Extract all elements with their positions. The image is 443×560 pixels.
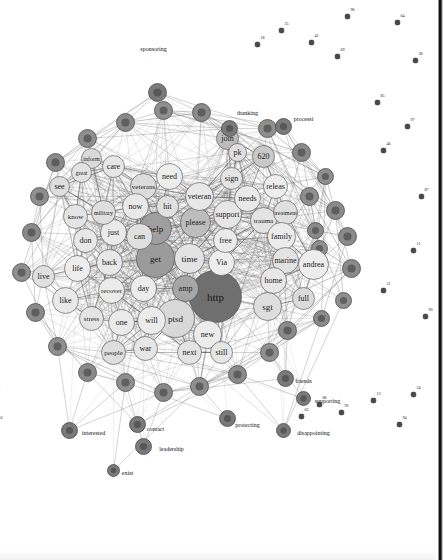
peripheral-node[interactable]: sponsoring xyxy=(140,45,166,101)
ring-node[interactable] xyxy=(228,365,246,383)
core-node-label: just xyxy=(106,228,119,237)
core-node[interactable]: back xyxy=(96,249,122,275)
core-node[interactable]: hit xyxy=(156,195,178,217)
isolated-node-label: 64 xyxy=(400,12,405,17)
core-node[interactable]: life xyxy=(64,255,90,281)
isolated-node[interactable]: 24 xyxy=(411,384,421,396)
isolated-node[interactable]: 51 xyxy=(381,280,390,292)
core-node-label: live xyxy=(37,272,49,281)
isolated-node-label: 86 xyxy=(322,394,326,399)
core-node[interactable]: now xyxy=(122,193,148,219)
isolated-node[interactable]: 90 xyxy=(423,306,432,318)
ring-node[interactable] xyxy=(192,103,210,121)
peripheral-node-label: contact xyxy=(146,425,164,431)
core-node[interactable]: great xyxy=(71,162,91,182)
core-node-label: new xyxy=(200,330,214,339)
isolated-node[interactable]: 92 xyxy=(339,402,348,414)
isolated-node-label: 97 xyxy=(410,116,414,121)
core-node[interactable]: next xyxy=(177,340,201,364)
core-node-label: full xyxy=(297,294,309,303)
peripheral-node[interactable]: disappointing xyxy=(276,423,329,437)
core-node-label: one xyxy=(115,318,127,327)
core-node[interactable]: will xyxy=(137,306,165,334)
ring-node[interactable] xyxy=(26,303,44,321)
figure-canvas: httpptsdgethelpamptimeViapleasesupportfr… xyxy=(0,0,443,560)
core-node[interactable]: like xyxy=(52,287,78,313)
isolated-node[interactable]: 62 xyxy=(299,406,308,418)
core-node[interactable]: know xyxy=(63,204,87,228)
ring-node[interactable] xyxy=(12,263,30,281)
peripheral-node[interactable]: interested xyxy=(61,422,105,438)
core-node-label: releas xyxy=(266,182,285,191)
core-node-label: 620 xyxy=(257,152,269,161)
isolated-node[interactable]: 69 xyxy=(335,46,344,58)
isolated-node[interactable]: 18 xyxy=(255,34,264,46)
isolated-node-label: 35 xyxy=(284,20,288,25)
ring-node[interactable] xyxy=(313,310,329,326)
core-node-label: life xyxy=(72,264,83,273)
core-node[interactable]: live xyxy=(32,265,54,287)
ring-node[interactable] xyxy=(46,153,64,171)
peripheral-node[interactable]: contact xyxy=(129,416,164,432)
isolated-node[interactable]: 35 xyxy=(279,20,288,32)
isolated-node-label: 96 xyxy=(350,6,354,11)
isolated-node[interactable]: 97 xyxy=(405,116,414,128)
core-node-label: free xyxy=(219,236,232,245)
isolated-node[interactable]: 94 xyxy=(397,414,407,426)
core-node-label: pk xyxy=(233,148,241,157)
peripheral-node[interactable]: protecting xyxy=(219,410,259,427)
isolated-node[interactable]: 66 xyxy=(0,414,2,426)
core-node-label: family xyxy=(271,232,292,241)
isolated-node-label: 66 xyxy=(0,414,2,419)
ring-node[interactable] xyxy=(22,223,40,241)
peripheral-node[interactable]: exist xyxy=(107,464,133,476)
ring-node[interactable] xyxy=(335,292,351,308)
isolated-node[interactable]: 46 xyxy=(381,140,390,152)
isolated-node[interactable]: 11 xyxy=(411,240,420,252)
ring-node[interactable] xyxy=(154,101,172,119)
isolated-node[interactable]: 38 xyxy=(413,50,422,62)
isolated-node-label: 90 xyxy=(428,306,432,311)
isolated-node[interactable]: 64 xyxy=(395,12,405,24)
ring-node[interactable] xyxy=(30,187,48,205)
ring-node[interactable] xyxy=(258,119,276,137)
core-node[interactable]: see xyxy=(49,176,69,196)
isolated-node[interactable]: 85 xyxy=(375,92,384,104)
peripheral-node[interactable]: processi xyxy=(275,115,313,134)
isolated-node[interactable]: 13 xyxy=(371,390,380,402)
isolated-node[interactable]: 87 xyxy=(419,186,428,198)
peripheral-node-label: leadership xyxy=(159,445,184,451)
core-node[interactable]: needs xyxy=(234,185,260,211)
core-node-label: ptsd xyxy=(167,313,183,323)
core-node[interactable]: andrea xyxy=(298,249,328,279)
ring-node[interactable] xyxy=(78,129,96,147)
core-node[interactable]: stress xyxy=(79,306,103,330)
peripheral-node[interactable]: friends xyxy=(277,370,312,386)
peripheral-node-label: processi xyxy=(293,115,313,121)
core-node[interactable]: need xyxy=(156,163,182,189)
ring-node[interactable] xyxy=(48,337,66,355)
core-node-label: stress xyxy=(83,314,99,322)
core-node[interactable]: time xyxy=(174,243,204,273)
core-node-label: time xyxy=(181,253,197,263)
core-node[interactable]: please xyxy=(180,207,210,237)
ring-node[interactable] xyxy=(190,377,208,395)
ring-node[interactable] xyxy=(154,383,172,401)
core-node-label: can xyxy=(133,232,144,241)
core-node-label: Via xyxy=(215,258,227,267)
ring-node[interactable] xyxy=(78,363,96,381)
core-node[interactable]: don xyxy=(73,228,97,252)
peripheral-node[interactable]: leadership xyxy=(135,438,183,454)
ring-node[interactable] xyxy=(116,113,134,131)
core-node[interactable]: care xyxy=(102,155,124,177)
graph-edge xyxy=(113,382,125,470)
isolated-node[interactable]: 96 xyxy=(345,6,354,18)
core-node-label: veterans xyxy=(131,182,155,190)
core-node-label: back xyxy=(101,258,116,267)
core-node[interactable]: sign xyxy=(220,167,242,189)
core-node-label: amp xyxy=(178,284,192,293)
core-node-label: day xyxy=(137,284,149,293)
isolated-node[interactable]: 41 xyxy=(309,32,318,44)
isolated-node-label: 51 xyxy=(386,280,390,285)
peripheral-node-label: protecting xyxy=(235,421,259,427)
